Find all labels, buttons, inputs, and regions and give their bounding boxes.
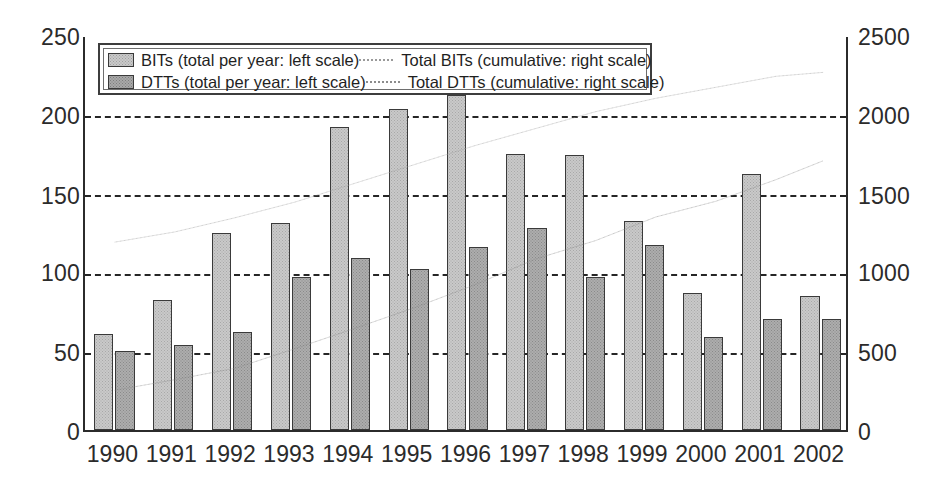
bar-dtts-1996	[469, 247, 488, 430]
legend-line-total-dtts-icon	[366, 81, 400, 83]
chart-container: 250 200 150 100 50 0 2500 2000 1500 1000…	[0, 0, 942, 489]
bar-dtts-1999	[645, 245, 664, 430]
bar-dtts-1995	[410, 269, 429, 430]
bar-dtts-1992	[233, 332, 252, 430]
y-axis-left-tick-150: 150	[41, 185, 80, 208]
legend-line-total-bits-icon	[359, 59, 393, 61]
bar-dtts-1990	[115, 351, 134, 430]
bar-bits-1999	[624, 221, 643, 430]
x-axis-label-1996: 1996	[440, 443, 491, 466]
y-axis-left-tick-250: 250	[41, 26, 80, 49]
bar-dtts-2002	[822, 319, 841, 430]
bar-bits-1998	[565, 155, 584, 430]
legend-entry-bits-bars: BITs (total per year: left scale)	[108, 52, 359, 69]
y-axis-left-tick-100: 100	[41, 262, 80, 285]
bar-dtts-1994	[351, 258, 370, 430]
bar-bits-1995	[389, 109, 408, 430]
bar-bits-2002	[800, 296, 819, 430]
legend-entry-total-bits: Total BITs (cumulative: right scale)	[359, 52, 651, 69]
bar-dtts-1991	[174, 345, 193, 430]
bar-dtts-1993	[292, 277, 311, 430]
bar-bits-1994	[330, 127, 349, 430]
x-axis-label-2001: 2001	[734, 443, 785, 466]
y-axis-right-tick-1500: 1500	[858, 185, 910, 208]
legend-swatch-bits-icon	[108, 53, 134, 67]
bar-bits-2000	[683, 293, 702, 430]
bar-bits-1990	[94, 334, 113, 430]
bar-dtts-2000	[704, 337, 723, 430]
legend-label-bits-bars: BITs (total per year: left scale)	[141, 52, 359, 69]
y-axis-right-tick-2000: 2000	[858, 105, 910, 128]
bar-dtts-1997	[527, 228, 546, 430]
y-axis-left-tick-50: 50	[54, 342, 80, 365]
legend-entry-total-dtts: Total DTTs (cumulative: right scale)	[366, 74, 665, 91]
plot-area: BITs (total per year: left scale) Total …	[83, 37, 848, 432]
chart-legend: BITs (total per year: left scale) Total …	[98, 43, 652, 95]
x-axis-label-2002: 2002	[793, 443, 844, 466]
x-axis-label-2000: 2000	[675, 443, 726, 466]
y-axis-right-tick-500: 500	[858, 342, 897, 365]
legend-row-1: BITs (total per year: left scale) Total …	[108, 49, 642, 71]
y-axis-left-tick-0: 0	[67, 421, 80, 444]
x-axis-label-1994: 1994	[322, 443, 373, 466]
bar-dtts-1998	[586, 277, 605, 430]
legend-entry-dtts-bars: DTTs (total per year: left scale)	[108, 74, 366, 91]
legend-label-total-dtts: Total DTTs (cumulative: right scale)	[408, 74, 665, 91]
bar-bits-2001	[742, 174, 761, 430]
bar-bits-1996	[447, 95, 466, 430]
legend-label-dtts-bars: DTTs (total per year: left scale)	[141, 74, 366, 91]
x-axis-label-1990: 1990	[87, 443, 138, 466]
x-axis-label-1993: 1993	[263, 443, 314, 466]
y-axis-right-tick-1000: 1000	[858, 262, 910, 285]
y-axis-right-tick-0: 0	[858, 421, 871, 444]
bars-layer	[85, 37, 846, 430]
bar-bits-1997	[506, 154, 525, 431]
x-axis-label-1995: 1995	[381, 443, 432, 466]
legend-swatch-dtts-icon	[108, 75, 134, 89]
legend-row-2: DTTs (total per year: left scale) Total …	[108, 71, 642, 93]
y-axis-right-tick-2500: 2500	[858, 26, 910, 49]
y-axis-left-tick-200: 200	[41, 105, 80, 128]
x-axis-label-1997: 1997	[499, 443, 550, 466]
x-axis-label-1998: 1998	[558, 443, 609, 466]
bar-dtts-2001	[763, 319, 782, 430]
bar-bits-1991	[153, 300, 172, 430]
x-axis-label-1991: 1991	[146, 443, 197, 466]
x-axis-label-1999: 1999	[616, 443, 667, 466]
bar-bits-1993	[271, 223, 290, 430]
legend-label-total-bits: Total BITs (cumulative: right scale)	[401, 52, 651, 69]
bar-bits-1992	[212, 233, 231, 431]
x-axis-label-1992: 1992	[205, 443, 256, 466]
